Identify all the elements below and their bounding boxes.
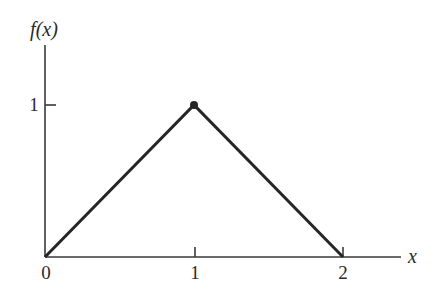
x-tick-label-0: 0 [41,262,51,283]
triangular-density-chart: f(x) x 1 0 1 2 [0,0,438,298]
x-tick-label-2: 2 [338,262,348,283]
x-tick-label-1: 1 [190,262,200,283]
peak-point-marker [190,101,198,109]
function-curve [45,105,343,257]
y-tick-label-1: 1 [29,94,39,115]
y-axis-label: f(x) [30,18,58,41]
x-axis-label: x [407,245,417,267]
